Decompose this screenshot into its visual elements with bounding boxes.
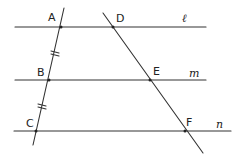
label-b: B bbox=[37, 66, 45, 79]
label-line-l: ℓ bbox=[182, 12, 187, 25]
label-e: E bbox=[153, 65, 160, 78]
point-d bbox=[112, 26, 115, 29]
label-c: C bbox=[26, 117, 34, 130]
point-a bbox=[60, 26, 63, 29]
point-e bbox=[149, 79, 152, 82]
transversal-2 bbox=[103, 13, 203, 153]
parallel-lines-diagram: A B C D E F ℓ m n bbox=[0, 0, 243, 159]
label-line-n: n bbox=[216, 118, 223, 131]
point-c bbox=[35, 130, 38, 133]
tick-mark-ab bbox=[51, 51, 59, 56]
label-d: D bbox=[116, 12, 124, 25]
label-a: A bbox=[48, 11, 56, 24]
point-f bbox=[184, 130, 187, 133]
point-b bbox=[48, 79, 51, 82]
label-line-m: m bbox=[189, 67, 199, 80]
label-f: F bbox=[186, 116, 192, 129]
